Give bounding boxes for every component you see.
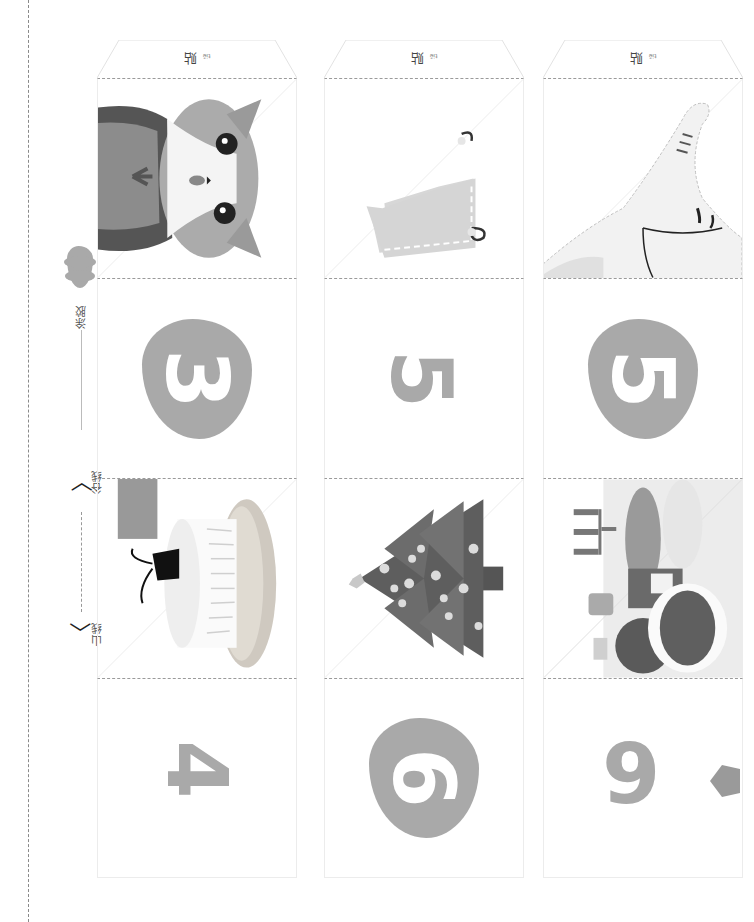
number-digit: 9 — [602, 732, 660, 816]
cell-christmas-dinner — [543, 478, 743, 678]
number-digit: 4 — [155, 740, 239, 798]
cell-number-6: 6 — [324, 678, 524, 878]
christmas-dinner-illustration — [544, 479, 742, 678]
pentagon-shape-icon — [706, 761, 742, 801]
cell-number-5: 5 — [324, 278, 524, 478]
cell-christmas-tree — [324, 478, 524, 678]
strip-column-1: tiē 贴 3 — [97, 40, 297, 878]
elephant-illustration — [544, 79, 742, 278]
valley-fold-arrow-icon: 〈 — [70, 470, 92, 492]
mountain-fold-arrow-icon: 〈 — [70, 622, 92, 644]
cell-elephant — [543, 78, 743, 278]
cell-number-5-blob: 5 — [543, 278, 743, 478]
paste-tab: tiē 贴 — [324, 40, 524, 78]
cut-line — [28, 0, 29, 922]
number-blob: 3 — [142, 319, 252, 439]
number-digit: 5 — [600, 349, 686, 409]
cell-stocking — [324, 78, 524, 278]
number-digit: 6 — [381, 748, 467, 808]
cell-number-3: 3 — [97, 278, 297, 478]
number-blob: 6 — [369, 718, 479, 838]
legend: 涂胶 〈 谷线 〈 山线 — [30, 0, 90, 922]
paste-tab: tiē 贴 — [97, 40, 297, 78]
dashed-line-sample — [81, 512, 82, 612]
tab-ruby: tiē — [430, 53, 438, 60]
cake-with-mouse-illustration — [98, 479, 296, 678]
cell-cat — [97, 78, 297, 278]
number-digit: 3 — [154, 349, 240, 409]
tab-label: 贴 — [630, 51, 643, 66]
cat-face-illustration — [98, 79, 296, 278]
cell-number-9: 9 — [543, 678, 743, 878]
number-digit: 5 — [379, 349, 463, 407]
strip-column-2: tiē 贴 5 — [324, 40, 524, 878]
stocking-tag-illustration — [325, 79, 523, 278]
tab-ruby: tiē — [649, 53, 657, 60]
tab-ruby: tiē — [203, 53, 211, 60]
christmas-tree-illustration — [325, 479, 523, 678]
tab-label: 贴 — [411, 51, 424, 66]
number-blob: 5 — [588, 319, 698, 439]
cell-number-4: 4 — [97, 678, 297, 878]
strip-column-3: tiē 贴 5 — [543, 40, 743, 878]
paste-tab: tiē 贴 — [543, 40, 743, 78]
tab-label: 贴 — [184, 51, 197, 66]
solid-line-sample — [81, 330, 82, 430]
cell-cake — [97, 478, 297, 678]
glue-swatch-icon — [67, 246, 93, 288]
glue-label: 涂胶 — [74, 305, 90, 329]
